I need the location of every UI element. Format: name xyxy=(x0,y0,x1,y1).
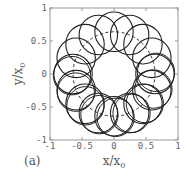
plot-area xyxy=(53,12,174,137)
ring-orbit-plot: -1-0.500.51-1-0.500.51 y/x0 x/x0 (a) xyxy=(0,0,190,180)
y-tick-label: 0 xyxy=(42,69,47,79)
ring-circle-double xyxy=(135,70,172,108)
y-tick-label: -1 xyxy=(36,135,47,145)
guide-circle xyxy=(73,32,155,116)
y-tick-label: 0.5 xyxy=(31,36,47,46)
ring-circle-double xyxy=(67,87,104,125)
x-tick-label: 0 xyxy=(111,141,116,151)
x-tick-label: 0.5 xyxy=(138,141,154,151)
x-axis-label: x/x0 xyxy=(103,154,126,170)
ring-circle-double xyxy=(81,95,118,133)
y-tick-label: 1 xyxy=(42,3,47,13)
ring-circle-double xyxy=(126,84,163,122)
y-axis-label: y/x0 xyxy=(11,63,27,87)
panel-label: (a) xyxy=(24,154,41,168)
x-tick-label: -0.5 xyxy=(71,141,93,151)
y-tick-label: -0.5 xyxy=(25,102,47,112)
x-tick-label: 1 xyxy=(175,141,180,151)
